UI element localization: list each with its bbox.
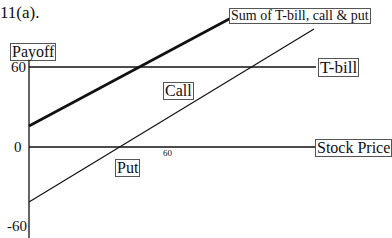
call-label: Call [163, 82, 194, 100]
y-tick-neg60: -60 [7, 219, 27, 234]
payoff-diagram: 11(a). Payoff 60 0 -60 60 Sum of T-bill,… [0, 0, 392, 238]
diagram-canvas [0, 0, 392, 238]
sum-label: Sum of T-bill, call & put [229, 8, 371, 24]
x-tick-60: 60 [163, 149, 172, 158]
figure-title: 11(a). [0, 4, 40, 21]
x-axis-label: Stock Price [315, 139, 392, 157]
y-tick-60: 60 [11, 60, 26, 75]
tbill-label: T-bill [318, 58, 359, 77]
put-label: Put [115, 159, 140, 177]
call-put-line [29, 29, 314, 202]
y-tick-0: 0 [14, 140, 22, 155]
sum-line [29, 18, 231, 126]
